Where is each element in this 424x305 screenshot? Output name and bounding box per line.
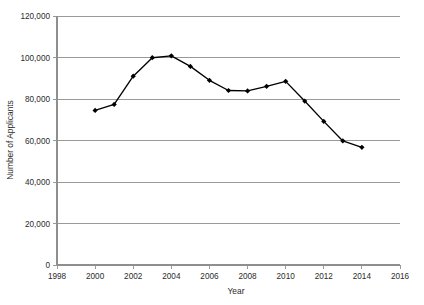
- x-tick-label: 2016: [391, 272, 410, 281]
- x-tick-label: 2010: [277, 272, 296, 281]
- x-tick-label: 2008: [238, 272, 257, 281]
- x-tick-label: 2014: [353, 272, 372, 281]
- y-tick-label: 80,000: [25, 95, 50, 104]
- x-tick-label: 2004: [162, 272, 181, 281]
- x-tick-label: 1998: [48, 272, 67, 281]
- x-axis-title: Year: [228, 286, 245, 296]
- x-tick-label: 2000: [86, 272, 105, 281]
- y-tick-label: 120,000: [20, 12, 50, 21]
- y-tick-label: 100,000: [20, 54, 50, 63]
- y-tick-label: 40,000: [25, 178, 50, 187]
- x-tick-label: 2012: [315, 272, 334, 281]
- x-tick-label: 2002: [124, 272, 143, 281]
- y-tick-label: 60,000: [25, 137, 50, 146]
- y-axis-title: Number of Applicants: [5, 100, 15, 180]
- line-chart: 020,00040,00060,00080,000100,000120,000 …: [0, 0, 424, 305]
- chart-canvas: 020,00040,00060,00080,000100,000120,000 …: [0, 0, 424, 305]
- y-tick-label: 20,000: [25, 220, 50, 229]
- chart-background: [0, 0, 424, 305]
- y-tick-label: 0: [45, 261, 50, 270]
- x-tick-label: 2006: [200, 272, 219, 281]
